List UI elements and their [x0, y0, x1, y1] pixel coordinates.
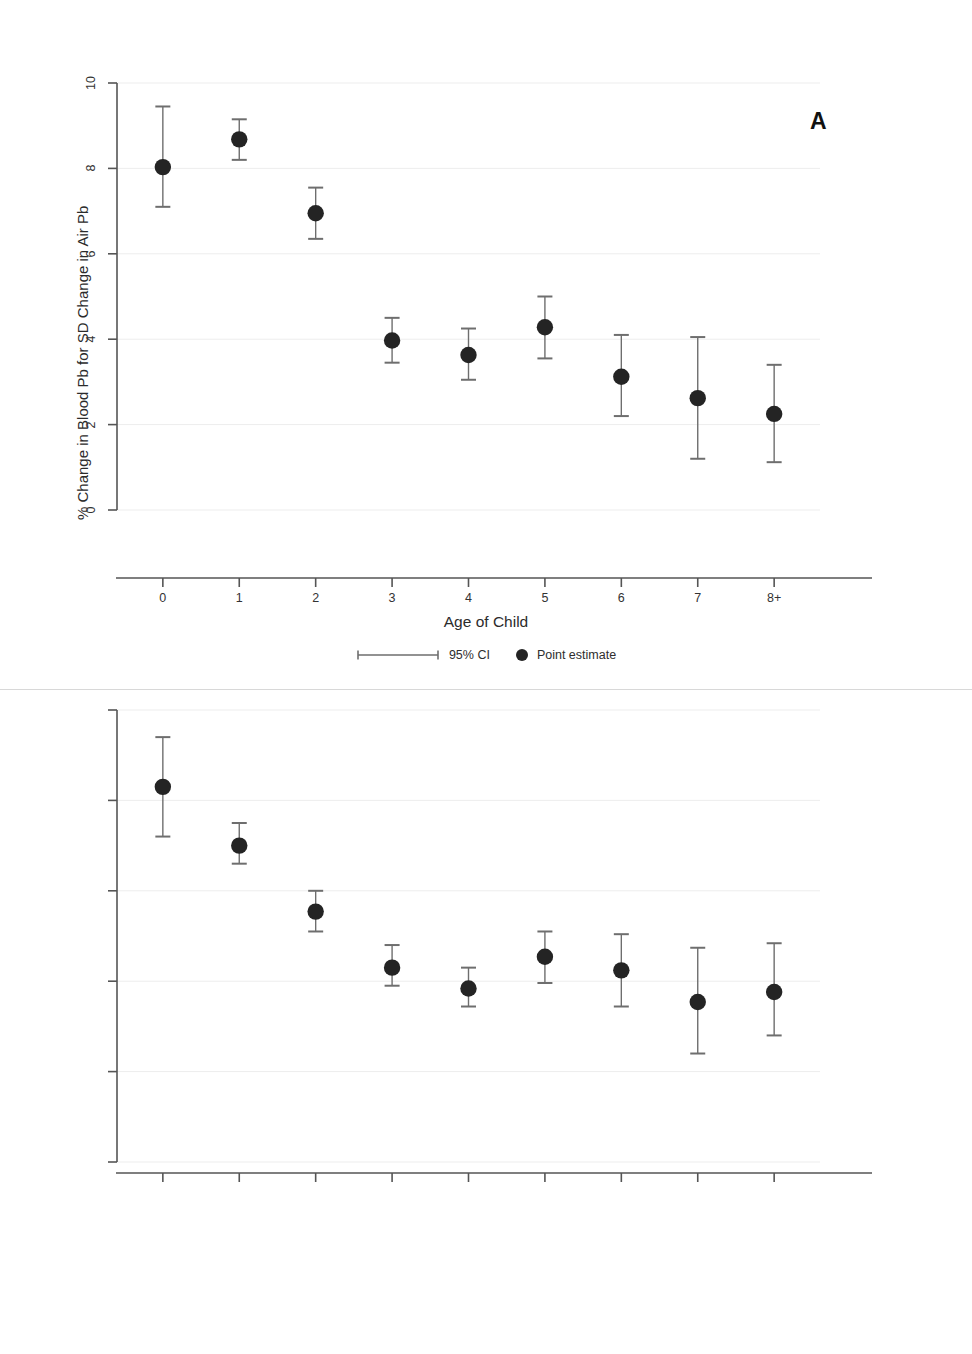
x-tick-label: 7 [678, 591, 718, 605]
data-point-group [155, 106, 171, 206]
data-point-group [537, 931, 553, 983]
data-point-group [384, 945, 400, 986]
data-point-group [307, 891, 323, 932]
x-tick-label: 0 [143, 591, 183, 605]
data-point-group [613, 335, 629, 416]
ci-bar-icon [356, 649, 440, 661]
data-point-group [460, 968, 476, 1007]
legend-item-point: Point estimate [516, 648, 616, 662]
data-point-group [231, 119, 247, 160]
y-tick-label: 10 [83, 63, 99, 103]
x-tick-label: 6 [601, 591, 641, 605]
panel-a-plot-area [0, 0, 972, 690]
panel-a-legend: 95% CI Point estimate [0, 648, 972, 662]
data-point-group [537, 297, 553, 359]
legend-item-ci: 95% CI [356, 648, 490, 662]
x-tick-label: 1 [219, 591, 259, 605]
legend-ci-label: 95% CI [449, 648, 490, 662]
data-point-group [460, 329, 476, 380]
panel-a: A % Change in Blood Pb for SD Change in … [0, 0, 972, 690]
data-point-group [690, 948, 706, 1054]
y-tick-label: 4 [83, 319, 99, 359]
legend-point-label: Point estimate [537, 648, 616, 662]
panel-b-plot-area [0, 690, 972, 1354]
x-tick-label: 3 [372, 591, 412, 605]
x-tick-label: 5 [525, 591, 565, 605]
y-tick-label: 2 [83, 405, 99, 445]
y-tick-label: 6 [83, 234, 99, 274]
y-tick-label: 8 [83, 148, 99, 188]
y-tick-label: 0 [83, 490, 99, 530]
x-tick-label: 8+ [754, 591, 794, 605]
data-point-group [384, 318, 400, 363]
point-estimate-icon [516, 649, 528, 661]
data-point-group [690, 337, 706, 459]
panel-b: B Odds Ratio of 5+ µg/dL for SD Change i… [0, 690, 972, 1354]
panel-a-letter: A [810, 108, 827, 135]
x-tick-label: 2 [296, 591, 336, 605]
data-point-group [307, 188, 323, 239]
data-point-group [766, 365, 782, 462]
data-point-group [155, 737, 171, 836]
data-point-group [613, 934, 629, 1006]
data-point-group [766, 943, 782, 1035]
data-point-group [231, 823, 247, 864]
panel-a-x-axis-title: Age of Child [0, 613, 972, 631]
forest-plot-figure: A % Change in Blood Pb for SD Change in … [0, 0, 972, 1354]
x-tick-label: 4 [449, 591, 489, 605]
